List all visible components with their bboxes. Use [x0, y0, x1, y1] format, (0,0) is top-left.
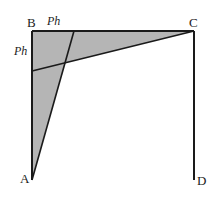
label-top-ph: Ph [46, 14, 60, 28]
label-left-ph: Ph [13, 44, 27, 58]
diagram-canvas: B C A D Ph Ph [0, 0, 215, 202]
label-d: D [197, 173, 206, 188]
label-c: C [189, 15, 198, 30]
label-b: B [27, 15, 36, 30]
label-a: A [20, 171, 30, 186]
